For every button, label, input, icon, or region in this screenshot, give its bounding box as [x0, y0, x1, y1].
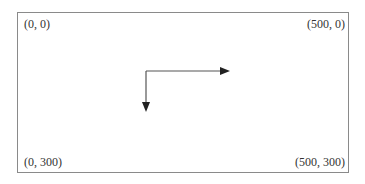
y-axis-arrowhead-icon	[142, 102, 150, 112]
x-axis-arrowhead-icon	[220, 67, 230, 75]
y-axis-arrow	[142, 71, 150, 112]
x-axis-arrow	[146, 67, 230, 75]
axes-diagram	[0, 0, 365, 184]
